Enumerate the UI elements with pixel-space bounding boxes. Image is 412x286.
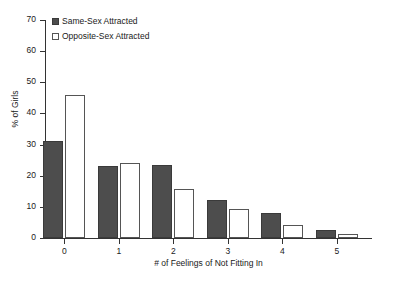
bar-opposite-sex-2 (174, 189, 194, 238)
bar-same-sex-0 (43, 141, 63, 238)
x-axis-tick (173, 239, 174, 244)
x-axis-tick-label: 3 (213, 246, 243, 256)
y-axis-tick-label: 60 (14, 46, 36, 55)
legend-item-same-sex-attracted: Same-Sex Attracted (52, 14, 222, 29)
bar-same-sex-5 (316, 230, 336, 238)
x-axis-tick (282, 239, 283, 244)
bar-same-sex-2 (152, 165, 172, 238)
y-axis-tick-label: 40 (14, 108, 36, 117)
caption-strip (0, 276, 412, 286)
x-axis-tick-label: 1 (104, 246, 134, 256)
x-axis-tick-label: 4 (267, 246, 297, 256)
x-axis-tick (228, 239, 229, 244)
x-axis-line (45, 238, 372, 239)
bar-opposite-sex-0 (65, 95, 85, 238)
bar-same-sex-4 (261, 213, 281, 238)
x-axis-tick (64, 239, 65, 244)
legend-label-same-sex-attracted: Same-Sex Attracted (62, 17, 138, 26)
legend-swatch-open-square-icon (52, 33, 59, 40)
bar-chart-figure: % of Girls 010203040506070 012345 # of F… (0, 0, 412, 286)
y-axis-tick-label: 30 (14, 140, 36, 149)
legend-swatch-filled-square-icon (52, 18, 59, 25)
bar-same-sex-1 (98, 166, 118, 238)
bar-opposite-sex-3 (229, 209, 249, 238)
x-axis-tick-label: 5 (322, 246, 352, 256)
y-axis-tick-label: 50 (14, 77, 36, 86)
bar-opposite-sex-4 (283, 225, 303, 238)
x-axis-title: # of Feelings of Not Fitting In (45, 258, 372, 268)
x-axis-tick-label: 2 (158, 246, 188, 256)
bar-same-sex-3 (207, 200, 227, 238)
plot-area (45, 20, 372, 238)
y-axis-tick-label: 20 (14, 171, 36, 180)
x-axis-tick (337, 239, 338, 244)
x-axis-tick (119, 239, 120, 244)
chart-legend: Same-Sex Attracted Opposite-Sex Attracte… (52, 14, 222, 44)
y-axis-tick-label: 10 (14, 202, 36, 211)
legend-item-opposite-sex-attracted: Opposite-Sex Attracted (52, 29, 222, 44)
x-axis-tick-label: 0 (49, 246, 79, 256)
legend-label-opposite-sex-attracted: Opposite-Sex Attracted (62, 32, 149, 41)
y-axis-tick-label: 70 (14, 15, 36, 24)
bar-opposite-sex-1 (120, 163, 140, 238)
y-axis-tick-label: 0 (14, 233, 36, 242)
